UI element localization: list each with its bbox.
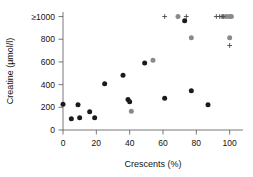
- x-tick-label: 40: [125, 138, 135, 148]
- series-black-circle: [61, 18, 211, 121]
- data-point-circle: [76, 102, 81, 107]
- y-axis-tick-labels: 0200400600800≥1000: [31, 12, 55, 135]
- y-tick-label: 800: [41, 34, 55, 44]
- data-point-circle: [127, 99, 132, 104]
- data-point-circle: [102, 81, 107, 86]
- data-point-plus: [227, 43, 232, 48]
- scatter-chart: 0200400600800≥1000 020406080100 Creatine…: [0, 0, 253, 177]
- data-point-circle: [69, 116, 74, 121]
- x-tick-label: 100: [223, 138, 237, 148]
- y-axis-ticks: [59, 17, 64, 130]
- y-tick-label: ≥1000: [31, 12, 55, 22]
- data-point-circle: [87, 109, 92, 114]
- data-point-circle: [227, 35, 232, 40]
- series-cross: [162, 14, 232, 48]
- x-tick-label: 20: [92, 138, 102, 148]
- data-point-circle: [229, 14, 234, 19]
- y-tick-label: 200: [41, 102, 55, 112]
- data-point-circle: [129, 109, 134, 114]
- x-axis-tick-labels: 020406080100: [61, 138, 237, 148]
- y-tick-label: 0: [50, 125, 55, 135]
- data-point-circle: [189, 35, 194, 40]
- data-point-plus: [162, 14, 167, 19]
- data-point-circle: [182, 18, 187, 23]
- data-point-circle: [206, 102, 211, 107]
- data-point-circle: [176, 14, 181, 19]
- data-point-circle: [189, 88, 194, 93]
- data-point-circle: [142, 61, 147, 66]
- data-point-circle: [77, 115, 82, 120]
- data-point-circle: [151, 58, 156, 63]
- data-point-circle: [61, 102, 66, 107]
- data-point-plus: [184, 14, 189, 19]
- y-tick-label: 600: [41, 57, 55, 67]
- data-point-circle: [92, 115, 97, 120]
- x-tick-label: 60: [158, 138, 168, 148]
- data-point-circle: [121, 73, 126, 78]
- data-point-circle: [162, 96, 167, 101]
- y-tick-label: 400: [41, 80, 55, 90]
- x-axis-title: Crescents (%): [124, 159, 181, 169]
- y-axis-title: Creatine (µmol/l): [5, 38, 15, 105]
- x-tick-label: 0: [61, 138, 66, 148]
- x-tick-label: 80: [192, 138, 202, 148]
- data-points-layer: [61, 14, 234, 121]
- x-axis-ticks: [63, 130, 230, 135]
